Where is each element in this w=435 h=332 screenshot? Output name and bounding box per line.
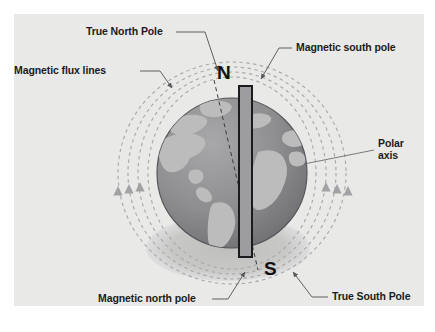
label-polar-axis-line1: Polar (378, 138, 404, 150)
label-polar-axis-line2: axis (378, 150, 398, 162)
flux-arrow-left-1 (113, 186, 122, 196)
diagram-root: N S True North Pole Magnetic south pole … (0, 0, 435, 332)
leader-magnetic-south-pole (261, 48, 292, 79)
label-magnetic-south-pole: Magnetic south pole (296, 42, 396, 54)
leader-true-south-pole (293, 272, 328, 297)
south-pole-marker: S (264, 258, 277, 280)
bar-magnet (239, 86, 252, 257)
label-magnetic-north-pole: Magnetic north pole (98, 293, 196, 305)
flux-arrow-right-2 (332, 184, 341, 194)
leader-true-north-pole (176, 32, 218, 71)
flux-arrow-left-2 (124, 184, 133, 194)
flux-arrow-right-group (321, 182, 352, 196)
label-magnetic-flux-lines: Magnetic flux lines (14, 65, 106, 77)
flux-arrow-right-1 (321, 182, 330, 192)
leader-magnetic-flux-lines (140, 71, 172, 88)
north-pole-marker: N (217, 62, 231, 84)
label-leaders-top (140, 32, 292, 88)
label-true-south-pole: True South Pole (332, 291, 410, 303)
flux-arrow-left-3 (135, 182, 144, 192)
label-true-north-pole: True North Pole (86, 26, 163, 38)
